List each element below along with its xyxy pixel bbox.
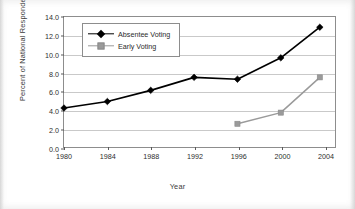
data-point-marker	[235, 121, 240, 126]
x-tick-label: 1980	[56, 152, 72, 161]
diamond-marker-icon	[97, 30, 105, 38]
y-tick-label: 10.0	[45, 50, 59, 59]
data-point-marker	[234, 76, 241, 83]
data-point-marker	[104, 98, 111, 105]
chart-legend: Absentee Voting Early Voting	[82, 23, 180, 57]
x-tick-mark	[239, 147, 240, 150]
x-tick-mark	[195, 147, 196, 150]
x-tick-label: 2000	[274, 152, 290, 161]
x-tick-label: 1996	[231, 152, 247, 161]
data-point-marker	[317, 75, 322, 80]
x-tick-label: 1984	[100, 152, 116, 161]
legend-key-diamond-icon	[88, 29, 114, 40]
legend-item-early: Early Voting	[88, 40, 170, 52]
y-tick-label: 2.0	[49, 126, 59, 135]
x-axis-title: Year	[0, 182, 355, 191]
x-tick-label: 1992	[187, 152, 203, 161]
x-tick-mark	[151, 147, 152, 150]
legend-label-early: Early Voting	[118, 42, 156, 51]
y-tick-label: 14.0	[45, 13, 59, 22]
y-tick-label: 4.0	[49, 107, 59, 116]
legend-key-square-icon	[88, 41, 114, 52]
square-marker-icon	[98, 43, 105, 50]
series-line-early-voting	[237, 77, 319, 123]
x-tick-label: 1988	[143, 152, 159, 161]
legend-label-absentee: Absentee Voting	[118, 30, 170, 39]
y-tick-label: 12.0	[45, 31, 59, 40]
plot-area: 0.02.04.06.08.010.012.014.0 198019841988…	[63, 16, 336, 148]
x-tick-mark	[108, 147, 109, 150]
data-point-marker	[278, 110, 283, 115]
x-tick-mark	[64, 147, 65, 150]
x-tick-label: 2004	[318, 152, 334, 161]
x-tick-mark	[282, 147, 283, 150]
y-tick-label: 8.0	[49, 69, 59, 78]
y-axis-title: Percent of National Respondents	[18, 0, 27, 115]
data-point-marker	[147, 87, 154, 94]
chart-figure: Percent of National Respondents 0.02.04.…	[0, 0, 355, 209]
legend-item-absentee: Absentee Voting	[88, 28, 170, 40]
x-tick-mark	[326, 147, 327, 150]
y-tick-label: 6.0	[49, 88, 59, 97]
data-point-marker	[191, 74, 198, 81]
